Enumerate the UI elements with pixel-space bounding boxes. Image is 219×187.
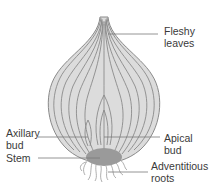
label-line: roots: [151, 172, 208, 184]
label-line: bud: [6, 139, 40, 151]
label-apical-bud: Apical bud: [164, 132, 193, 156]
label-line: Adventitious: [151, 160, 208, 172]
label-line: bud: [164, 144, 193, 156]
label-line: leaves: [164, 37, 195, 49]
label-adventitious-roots: Adventitious roots: [151, 160, 208, 184]
label-axillary-bud: Axillary bud: [6, 127, 40, 151]
label-stem: Stem: [6, 152, 31, 164]
label-line: Apical: [164, 132, 193, 144]
label-line: Stem: [6, 152, 31, 164]
label-line: Axillary: [6, 127, 40, 139]
label-fleshy-leaves: Fleshy leaves: [164, 25, 195, 49]
label-line: Fleshy: [164, 25, 195, 37]
